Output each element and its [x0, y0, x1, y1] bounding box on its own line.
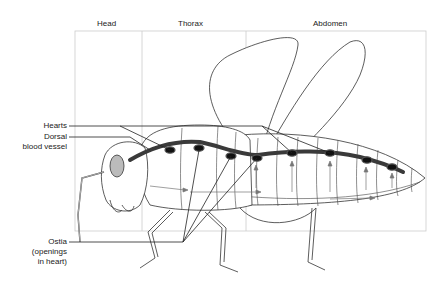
callout-dorsal-line1: Dorsal: [23, 132, 67, 142]
callout-hearts-text: Hearts: [43, 121, 67, 130]
region-label-abdomen: Abdomen: [313, 19, 347, 28]
legs: [140, 208, 325, 272]
callout-ostia: Ostia (openings in heart): [32, 237, 67, 267]
compound-eye: [110, 155, 124, 177]
callout-dorsal-line2: blood vessel: [23, 142, 67, 152]
insect-circulatory-diagram: Head Thorax Abdomen Hearts Dorsal blood …: [0, 0, 441, 293]
callout-dorsal-blood-vessel: Dorsal blood vessel: [23, 132, 67, 152]
callout-hearts: Hearts: [43, 121, 67, 131]
callout-ostia-line1: Ostia: [32, 237, 67, 247]
callout-ostia-line3: in heart): [32, 257, 67, 267]
callout-ostia-line2: (openings: [32, 247, 67, 257]
region-label-head: Head: [97, 19, 116, 28]
region-label-thorax: Thorax: [178, 19, 203, 28]
